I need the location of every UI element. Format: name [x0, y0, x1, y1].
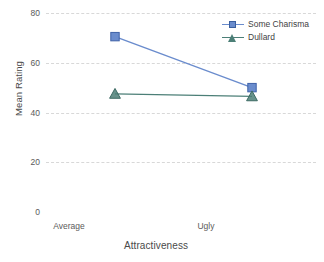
legend-label-dullard: Dullard	[248, 33, 275, 42]
y-tick-label-80: 80	[16, 9, 40, 18]
y-tick-label-20: 20	[16, 158, 40, 167]
legend: Some Charisma Dullard	[222, 19, 322, 45]
series-line-1	[115, 94, 252, 96]
line-chart: Mean Rating 80 60 40 20 0 Average Ugly A…	[0, 0, 324, 262]
legend-item-dullard[interactable]: Dullard	[222, 32, 322, 43]
x-axis-title: Attractiveness	[46, 240, 266, 251]
y-axis-title: Mean Rating	[13, 39, 24, 139]
y-tick-label-0: 0	[16, 208, 40, 217]
triangle-marker-icon	[222, 32, 244, 43]
square-marker-icon	[222, 19, 244, 30]
x-tick-label-average: Average	[34, 222, 104, 231]
legend-item-some-charisma[interactable]: Some Charisma	[222, 19, 322, 30]
data-point-marker[interactable]	[111, 32, 119, 40]
y-tick-label-60: 60	[16, 59, 40, 68]
x-tick-label-ugly: Ugly	[171, 222, 241, 231]
legend-label-some-charisma: Some Charisma	[248, 20, 309, 29]
y-tick-label-40: 40	[16, 109, 40, 118]
